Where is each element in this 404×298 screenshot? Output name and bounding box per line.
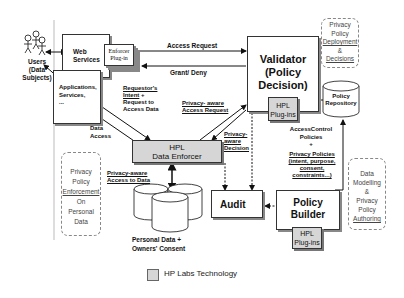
builder-plugins-line-1: HPL [293, 230, 321, 239]
authoring-note: Data Modelling & Privacy Policy Authorin… [348, 158, 386, 230]
authoring-line-4: Privacy [349, 196, 385, 205]
builder-plugins-line-2: Plug-ins [293, 239, 321, 248]
personal-data-label: Personal Data + Owners' Consent [132, 236, 185, 253]
policy-builder-line-1: Policy [277, 197, 339, 209]
authoring-line-5: Policy [349, 205, 385, 214]
legend-swatch [147, 269, 159, 281]
personal-data-line-1: Personal Data + [132, 236, 185, 245]
policy-builder-line-2: Builder [277, 209, 339, 221]
authoring-line-2: Modelling [349, 178, 385, 187]
builder-plugins-box: HPL Plug-ins [292, 227, 322, 249]
authoring-line-3: & [349, 187, 385, 196]
authoring-line-6: Authoring [349, 214, 385, 223]
audit-label: Audit [220, 199, 246, 210]
legend-label: HP Labs Technology [164, 268, 237, 280]
policy-builder-label: Policy Builder [277, 197, 339, 221]
personal-data-cylinders-icon [0, 0, 404, 298]
policy-builder-box: Policy Builder [276, 190, 340, 230]
authoring-line-1: Data [349, 169, 385, 178]
personal-data-line-2: Owners' Consent [132, 245, 185, 254]
audit-box: Audit [211, 190, 263, 218]
